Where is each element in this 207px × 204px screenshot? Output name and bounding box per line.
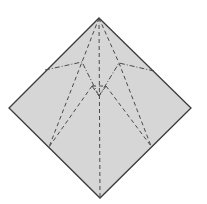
crease-pattern-diagram: [0, 0, 207, 204]
crease-pattern-svg: [0, 0, 207, 204]
paper-square: [9, 18, 191, 198]
